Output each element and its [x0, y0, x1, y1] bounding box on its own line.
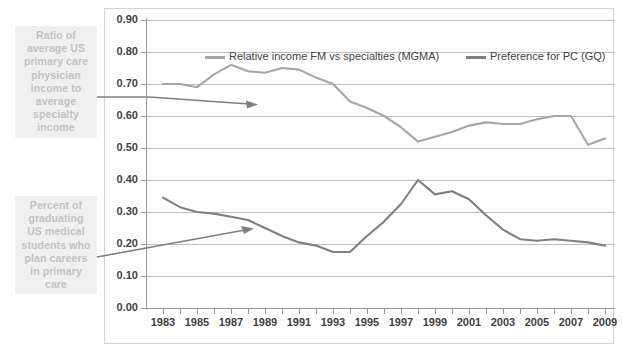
x-tick-mark [486, 309, 487, 314]
gridline [147, 212, 615, 213]
y-tick-label: 0.20 [98, 237, 138, 249]
y-tick-mark [141, 20, 146, 21]
x-tick-mark [435, 309, 436, 314]
x-tick-mark [571, 309, 572, 314]
y-tick-mark [141, 244, 146, 245]
y-tick-mark [141, 276, 146, 277]
x-tick-mark [537, 309, 538, 314]
y-tick-label: 0.00 [98, 301, 138, 313]
legend-label-income: Relative income FM vs specialties (MGMA) [229, 50, 439, 62]
x-tick-mark [316, 309, 317, 314]
legend-item-income: Relative income FM vs specialties (MGMA) [205, 50, 439, 62]
x-tick-mark [248, 309, 249, 314]
x-tick-label: 2009 [585, 316, 622, 328]
x-tick-mark [265, 309, 266, 314]
gridline [147, 276, 615, 277]
y-tick-label: 0.90 [98, 13, 138, 25]
x-tick-mark [503, 309, 504, 314]
x-tick-mark [469, 309, 470, 314]
y-tick-mark [141, 148, 146, 149]
y-tick-mark [141, 180, 146, 181]
y-tick-label: 0.40 [98, 173, 138, 185]
annotation-callout-preference: Percent of graduating US medical student… [15, 196, 97, 294]
y-tick-label: 0.60 [98, 109, 138, 121]
y-tick-label: 0.10 [98, 269, 138, 281]
legend-swatch-income [205, 56, 225, 59]
gridline [147, 20, 615, 21]
x-tick-mark [520, 309, 521, 314]
x-tick-mark [214, 309, 215, 314]
x-tick-mark [554, 309, 555, 314]
y-tick-mark [141, 84, 146, 85]
y-tick-label: 0.80 [98, 45, 138, 57]
x-tick-mark [197, 309, 198, 314]
gridline [147, 84, 615, 85]
x-axis-line [146, 308, 615, 309]
gridline [147, 148, 615, 149]
x-tick-mark [401, 309, 402, 314]
x-tick-mark [452, 309, 453, 314]
y-tick-label: 0.70 [98, 77, 138, 89]
chart-screenshot: Ratio of average US primary care physici… [0, 0, 622, 351]
x-tick-mark [605, 309, 606, 314]
legend-label-preference: Preference for PC (GQ) [490, 50, 606, 62]
x-tick-mark [350, 309, 351, 314]
x-tick-mark [588, 309, 589, 314]
gridline [147, 116, 615, 117]
gridline [147, 180, 615, 181]
x-tick-mark [418, 309, 419, 314]
y-tick-mark [141, 52, 146, 53]
x-tick-mark [282, 309, 283, 314]
x-tick-mark [333, 309, 334, 314]
y-tick-mark [141, 212, 146, 213]
y-tick-mark [141, 116, 146, 117]
y-tick-label: 0.30 [98, 205, 138, 217]
x-tick-mark [384, 309, 385, 314]
x-tick-mark [367, 309, 368, 314]
y-axis-line [146, 18, 147, 310]
annotation-callout-income: Ratio of average US primary care physici… [15, 26, 97, 138]
x-tick-mark [299, 309, 300, 314]
legend-item-preference: Preference for PC (GQ) [466, 50, 606, 62]
y-tick-mark [141, 308, 146, 309]
x-tick-mark [231, 309, 232, 314]
x-tick-mark [163, 309, 164, 314]
y-tick-label: 0.50 [98, 141, 138, 153]
legend-swatch-preference [466, 56, 486, 59]
gridline [147, 244, 615, 245]
x-tick-mark [180, 309, 181, 314]
